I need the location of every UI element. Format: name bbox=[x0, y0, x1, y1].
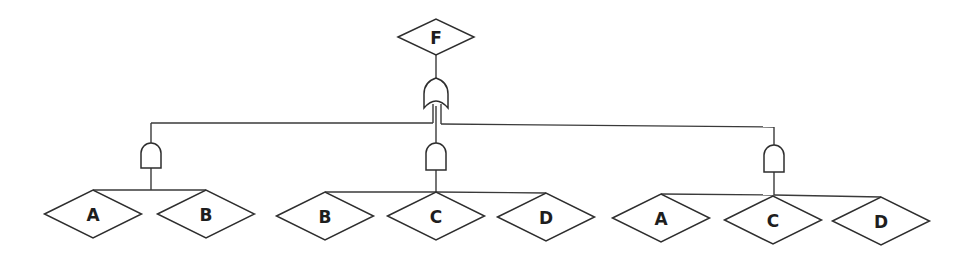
event-label: D bbox=[539, 208, 553, 228]
event-bus bbox=[661, 194, 774, 195]
top-event-f: F bbox=[398, 19, 474, 55]
event-label: D bbox=[874, 212, 888, 232]
basic-event-d: D bbox=[498, 193, 595, 241]
event-label: A bbox=[86, 205, 100, 225]
basic-event-a: A bbox=[45, 190, 142, 238]
basic-event-d: D bbox=[833, 197, 930, 245]
bus-right bbox=[441, 124, 774, 127]
and-gate-icon bbox=[764, 145, 784, 172]
connector-wires bbox=[93, 55, 881, 197]
events: ABBCDACDF bbox=[45, 19, 930, 245]
event-bus bbox=[436, 192, 546, 193]
event-label: B bbox=[200, 205, 213, 225]
and-gate-icon bbox=[426, 143, 446, 170]
event-label: A bbox=[654, 209, 668, 229]
logic-gates bbox=[141, 78, 784, 172]
basic-event-c: C bbox=[388, 192, 485, 240]
and-gate-icon bbox=[141, 143, 161, 168]
basic-event-b: B bbox=[158, 190, 255, 238]
fault-tree-diagram: ABBCDACDF bbox=[0, 0, 970, 261]
event-label: C bbox=[767, 211, 779, 231]
basic-event-a: A bbox=[613, 194, 710, 242]
event-label: B bbox=[319, 207, 332, 227]
event-label: C bbox=[430, 207, 442, 227]
event-bus bbox=[774, 195, 881, 197]
event-label: F bbox=[430, 28, 442, 48]
basic-event-b: B bbox=[277, 192, 374, 240]
or-gate-icon bbox=[424, 78, 448, 108]
basic-event-c: C bbox=[725, 196, 822, 244]
